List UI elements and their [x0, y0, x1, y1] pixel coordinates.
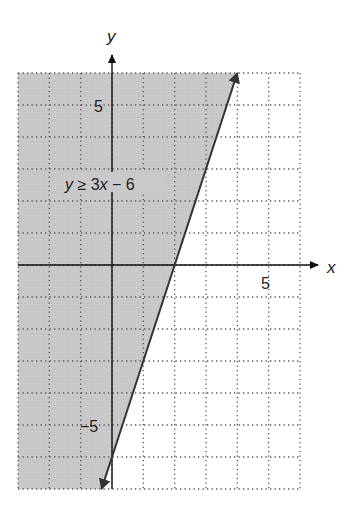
shaded-region — [18, 73, 237, 489]
inequality-label: y ≥ 3x − 6 — [64, 172, 164, 193]
y-tick-neg5: −5 — [80, 418, 98, 435]
x-axis-label: x — [326, 258, 336, 277]
inequality-graph: x y 5 5 −5 y ≥ 3x − 6 — [0, 0, 345, 515]
y-tick-5: 5 — [94, 98, 103, 115]
y-axis-label: y — [106, 27, 117, 46]
x-tick-5: 5 — [261, 275, 270, 292]
label-constant: − 6 — [108, 176, 135, 193]
label-relation: ≥ 3 — [73, 176, 100, 193]
svg-text:y ≥ 3x − 6: y ≥ 3x − 6 — [64, 176, 135, 193]
